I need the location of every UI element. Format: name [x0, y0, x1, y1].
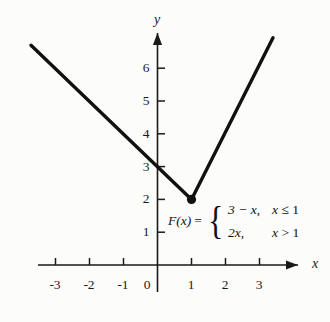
- x-tick-label-1: 1: [188, 278, 195, 292]
- x-tick-label--2: -2: [83, 278, 94, 292]
- formula-case1-expression: 3 − x,: [228, 203, 272, 217]
- curve-branch-right: [192, 38, 274, 200]
- piecewise-function-graph-figure: y x -3 -2 -1 0 1 2 3 1 2 3 4 5 6 F(x) = …: [0, 0, 330, 322]
- y-tick-label-6: 6: [143, 61, 150, 75]
- formula-function-name: F(x): [168, 214, 191, 228]
- y-axis-arrowhead: [153, 33, 162, 45]
- x-tick-label-0: 0: [144, 278, 151, 292]
- formula-case-row-2: 2x, x > 1: [228, 226, 299, 240]
- y-tick-label-5: 5: [143, 94, 150, 108]
- y-tick-label-3: 3: [143, 160, 150, 174]
- x-tick-label--1: -1: [117, 278, 128, 292]
- y-tick-label-1: 1: [143, 225, 150, 239]
- formula-equals-sign: =: [194, 214, 202, 228]
- formula-case2-condition: x > 1: [272, 226, 299, 240]
- y-axis-label: y: [154, 13, 160, 27]
- formula-case2-condition-variable: x: [272, 225, 278, 240]
- piecewise-formula-annotation: F(x) = { 3 − x, x ≤ 1 2x, x > 1: [168, 203, 299, 239]
- formula-cases: 3 − x, x ≤ 1 2x, x > 1: [228, 203, 299, 239]
- x-axis-arrowhead: [286, 260, 298, 269]
- plot-canvas: [0, 0, 330, 322]
- formula-left-brace: {: [208, 205, 223, 236]
- y-tick-label-4: 4: [143, 127, 150, 141]
- formula-case2-expression: 2x,: [228, 226, 272, 240]
- curve-branch-left: [31, 45, 192, 199]
- y-axis-ticks: [158, 68, 166, 232]
- x-tick-label-3: 3: [256, 278, 263, 292]
- formula-case2-condition-relation: > 1: [281, 225, 299, 240]
- formula-case-row-1: 3 − x, x ≤ 1: [228, 203, 299, 217]
- x-tick-label--3: -3: [49, 278, 60, 292]
- x-axis-label: x: [312, 257, 318, 271]
- x-tick-label-2: 2: [222, 278, 229, 292]
- y-tick-label-2: 2: [143, 192, 150, 206]
- formula-case1-condition-relation: ≤ 1: [281, 202, 299, 217]
- formula-case1-condition-variable: x: [272, 202, 278, 217]
- formula-case1-condition: x ≤ 1: [272, 203, 299, 217]
